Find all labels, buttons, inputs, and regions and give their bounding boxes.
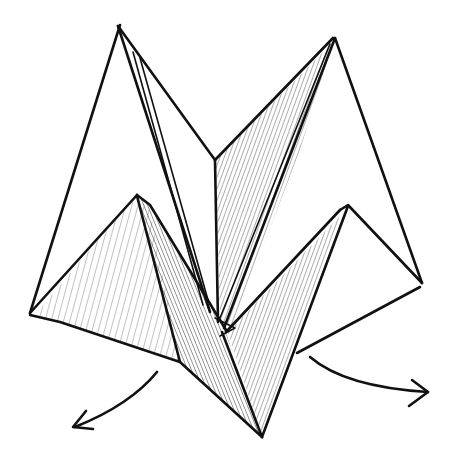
left-unfold-arrow — [75, 372, 157, 427]
right-lower-peak — [340, 205, 422, 283]
right-unfold-arrow — [310, 357, 428, 392]
right-outer-edge — [335, 38, 422, 283]
right-arrowhead-icon — [409, 380, 428, 406]
origami-diagram — [0, 0, 453, 469]
left-upper-edge — [118, 26, 215, 160]
hatched-regions — [35, 42, 344, 437]
